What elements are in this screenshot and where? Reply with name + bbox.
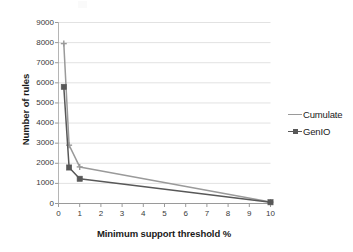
- legend-label: GenIO: [303, 126, 330, 137]
- data-point-marker: [268, 200, 273, 205]
- square-marker-icon: [288, 127, 302, 137]
- legend-item-cumulate[interactable]: Cumulate: [288, 106, 352, 123]
- series-line: [64, 87, 271, 202]
- series-genio: [61, 84, 273, 205]
- data-point-marker: [61, 84, 66, 89]
- data-point-marker: [77, 176, 82, 181]
- legend-label: Cumulate: [303, 109, 342, 120]
- chart-container: Number of rules Minimum support threshol…: [0, 0, 353, 252]
- cross-marker-icon: [288, 110, 302, 120]
- legend-item-genio[interactable]: GenIO: [288, 123, 352, 140]
- chart-legend: CumulateGenIO: [288, 106, 352, 140]
- data-point-marker: [67, 165, 72, 170]
